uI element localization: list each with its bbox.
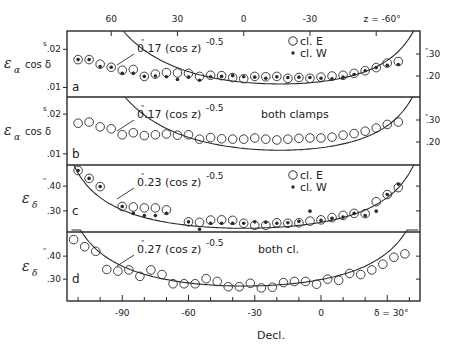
y-axis-label-epsilon: ε [22, 258, 30, 274]
bottom-axis-tick-label: 0 [318, 308, 324, 318]
left-axis-tick-label: .40 [47, 251, 62, 261]
y-axis-label-epsilon: ε [4, 55, 12, 71]
data-point-filled [76, 169, 80, 173]
top-axis-tick-label: 60 [105, 14, 117, 24]
fit-label-leader [117, 54, 134, 65]
data-point-filled [330, 77, 334, 81]
data-point-filled [396, 182, 400, 186]
bottom-axis-tick-label: δ = 30° [374, 308, 409, 318]
data-point-open [257, 284, 266, 293]
y-axis-label-subscript: δ [32, 268, 37, 278]
data-point-open [114, 267, 123, 276]
fit-label: 0.17 (cos z) [137, 108, 201, 121]
data-point-open [158, 270, 167, 279]
fit-curve [98, 29, 418, 84]
legend-marker-open-circle [289, 37, 297, 45]
data-point-filled [242, 75, 246, 79]
data-point-filled [120, 72, 124, 76]
data-point-filled [76, 58, 80, 62]
data-point-open [379, 260, 388, 269]
data-point-filled [187, 220, 191, 224]
right-axis-unit-mark: " [425, 113, 428, 121]
fit-label-leader [117, 255, 134, 266]
fit-label: 0.23 (cos z) [137, 176, 201, 189]
data-point-filled [131, 72, 135, 76]
right-axis-unit-mark: " [425, 47, 428, 55]
data-point-open [312, 280, 321, 289]
data-point-filled [275, 222, 279, 226]
data-point-filled [374, 209, 378, 213]
legend-marker-filled-dot [291, 51, 294, 54]
right-axis-tick-label: .20 [426, 137, 441, 147]
data-point-filled [87, 177, 91, 181]
data-point-open [356, 270, 365, 279]
fit-label-arcsec-mark: " [141, 239, 144, 247]
fit-curve [100, 95, 418, 150]
data-point-open [328, 133, 337, 142]
data-point-filled [319, 219, 323, 223]
data-point-open [268, 283, 277, 292]
data-point-open [162, 130, 171, 139]
top-axis-tick-label: 0 [241, 14, 247, 24]
data-point-filled [352, 73, 356, 77]
data-point-open [239, 135, 248, 144]
data-point-open [390, 253, 399, 262]
data-point-filled [165, 75, 169, 79]
data-point-open [80, 242, 89, 251]
data-point-filled [308, 76, 312, 80]
fit-label: 0.27 (cos z) [137, 243, 201, 256]
data-point-open [383, 120, 392, 129]
bottom-axis-tick-label: -30 [247, 308, 262, 318]
fit-label-exponent: -0.5 [206, 103, 224, 113]
fit-label: 0.17 (cos z) [137, 42, 201, 55]
data-point-filled [363, 214, 367, 218]
data-point-open [228, 135, 237, 144]
data-point-filled [341, 215, 345, 219]
fit-label-leader [117, 188, 134, 199]
data-point-open [118, 130, 127, 139]
fit-label-exponent: -0.5 [206, 238, 224, 248]
y-axis-label-subscript: α [14, 132, 20, 142]
data-point-filled [154, 214, 158, 218]
data-point-open [107, 125, 116, 134]
data-point-open [180, 279, 189, 288]
left-axis-unit-mark: s [43, 105, 47, 113]
data-point-open [279, 278, 288, 287]
y-axis-label-epsilon: ε [22, 190, 30, 206]
data-point-filled [187, 75, 191, 79]
left-axis-tick-label: .40 [47, 181, 62, 191]
panel-letter: a [72, 80, 79, 94]
y-axis-label-subscript: α [14, 65, 20, 75]
chart-canvas: 60300-30z = -60°-90-60-300δ = 30°Decl..0… [0, 0, 456, 353]
data-point-filled [120, 205, 124, 209]
data-point-filled [98, 185, 102, 189]
data-point-open [334, 276, 343, 285]
bottom-axis-tick-label: -90 [115, 308, 130, 318]
left-axis-tick-label: .02 [47, 109, 61, 119]
x-axis-label: Decl. [257, 329, 285, 342]
data-point-open [195, 135, 204, 144]
data-point-open [151, 204, 160, 213]
legend-marker-open-circle [289, 171, 297, 179]
data-point-filled [264, 77, 268, 81]
data-point-open [367, 266, 376, 275]
plot-frame [67, 31, 420, 301]
data-point-open [129, 128, 138, 137]
data-point-open [295, 134, 304, 143]
data-point-filled [176, 78, 180, 82]
data-point-filled [209, 222, 213, 226]
fit-curve [72, 230, 419, 286]
data-point-filled [374, 66, 378, 70]
data-point-filled [286, 76, 290, 80]
data-point-open [401, 250, 410, 259]
data-point-filled [87, 58, 91, 62]
data-point-filled [253, 75, 257, 79]
data-point-filled [297, 75, 301, 79]
data-point-open [102, 265, 111, 274]
data-point-open [261, 135, 270, 144]
data-point-filled [231, 74, 235, 78]
data-point-filled [231, 222, 235, 226]
y-axis-label-epsilon: ε [4, 122, 12, 138]
data-point-filled [297, 220, 301, 224]
data-point-open [284, 135, 293, 144]
